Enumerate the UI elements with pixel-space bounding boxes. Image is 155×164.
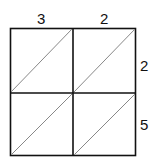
right-digit-1: 2 [140, 58, 148, 73]
top-digit-1: 3 [37, 11, 45, 26]
right-digit-2: 5 [140, 117, 148, 132]
lattice-grid [0, 0, 155, 164]
top-digit-2: 2 [100, 11, 108, 26]
